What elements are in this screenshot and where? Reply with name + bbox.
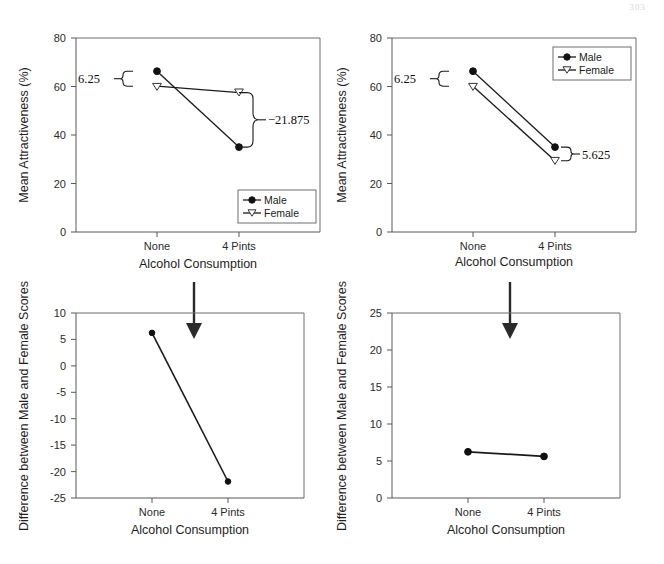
y-tick-label-minus15: -15	[50, 439, 66, 451]
y-tick-label-40: 40	[54, 129, 66, 141]
data-point-difference-4pints	[225, 479, 231, 485]
legend-label-male: Male	[579, 51, 602, 63]
plot-area-background	[392, 313, 620, 498]
y-tick-label-5: 5	[60, 333, 66, 345]
y-axis-title: Difference between Male and Female Score…	[17, 281, 31, 531]
data-point-male-none	[154, 68, 161, 75]
y-tick-label-minus25: -25	[50, 492, 66, 504]
x-tick-label-4pints: 4 Pints	[527, 506, 561, 518]
y-tick-label-60: 60	[54, 81, 66, 93]
y-tick-label-80: 80	[370, 32, 382, 44]
y-tick-label-10: 10	[54, 307, 66, 319]
chart-top-left: 80 60 40 20 0 None 4 Pints Alcohol Consu…	[0, 0, 340, 275]
y-tick-label-20: 20	[370, 178, 382, 190]
legend-label-female: Female	[264, 207, 299, 219]
y-tick-label-80: 80	[54, 32, 66, 44]
y-tick-label-25: 25	[370, 307, 382, 319]
annotation-right-value: 5.625	[582, 148, 610, 162]
annotation-right-value: −21.875	[268, 113, 309, 127]
x-tick-label-4pints: 4 Pints	[211, 506, 245, 518]
data-point-difference-none	[465, 448, 472, 455]
legend-top-left: Male Female	[238, 190, 316, 223]
y-axis-title: Mean Attractiveness (%)	[17, 67, 31, 202]
chart-bottom-left: 10 5 0 -5 -10 -15 -20 -25 None 4 Pints A…	[0, 275, 340, 564]
y-tick-label-20: 20	[370, 344, 382, 356]
annotation-left-value: 6.25	[78, 72, 100, 86]
legend-marker-male	[564, 54, 570, 60]
x-tick-label-none: None	[460, 240, 486, 252]
annotation-left-value: 6.25	[394, 72, 416, 86]
y-tick-label-60: 60	[370, 81, 382, 93]
y-tick-label-10: 10	[370, 418, 382, 430]
data-point-difference-none	[149, 330, 155, 336]
y-tick-label-minus10: -10	[50, 413, 66, 425]
chart-top-right: 80 60 40 20 0 None 4 Pints Alcohol Consu…	[330, 0, 664, 275]
chart-bottom-right: 25 20 15 10 5 0 None 4 Pints Alcohol Con…	[330, 275, 664, 564]
y-axis-title: Difference between Male and Female Score…	[335, 281, 349, 531]
legend-label-female: Female	[579, 64, 614, 76]
legend-label-male: Male	[264, 194, 287, 206]
x-tick-label-4pints: 4 Pints	[222, 240, 256, 252]
y-tick-label-0: 0	[60, 360, 66, 372]
data-point-difference-4pints	[541, 453, 548, 460]
y-tick-label-0: 0	[376, 492, 382, 504]
x-tick-label-4pints: 4 Pints	[538, 240, 572, 252]
y-tick-label-20: 20	[54, 178, 66, 190]
y-tick-label-40: 40	[370, 129, 382, 141]
y-tick-label-minus20: -20	[50, 466, 66, 478]
y-axis-title: Mean Attractiveness (%)	[335, 67, 349, 202]
x-axis-title: Alcohol Consumption	[447, 523, 565, 537]
y-tick-label-minus5: -5	[56, 386, 66, 398]
x-axis-title: Alcohol Consumption	[139, 257, 257, 271]
data-point-male-4pints	[552, 144, 559, 151]
legend-top-right: Male Female	[553, 47, 631, 80]
x-axis-title: Alcohol Consumption	[131, 523, 249, 537]
x-tick-label-none: None	[455, 506, 481, 518]
y-tick-label-15: 15	[370, 381, 382, 393]
x-tick-label-none: None	[144, 240, 170, 252]
x-tick-label-none: None	[139, 506, 165, 518]
data-point-male-none	[470, 68, 477, 75]
y-tick-label-0: 0	[376, 226, 382, 238]
y-tick-label-5: 5	[376, 455, 382, 467]
legend-marker-male	[249, 197, 255, 203]
x-axis-title: Alcohol Consumption	[455, 255, 573, 269]
y-tick-label-0: 0	[60, 226, 66, 238]
